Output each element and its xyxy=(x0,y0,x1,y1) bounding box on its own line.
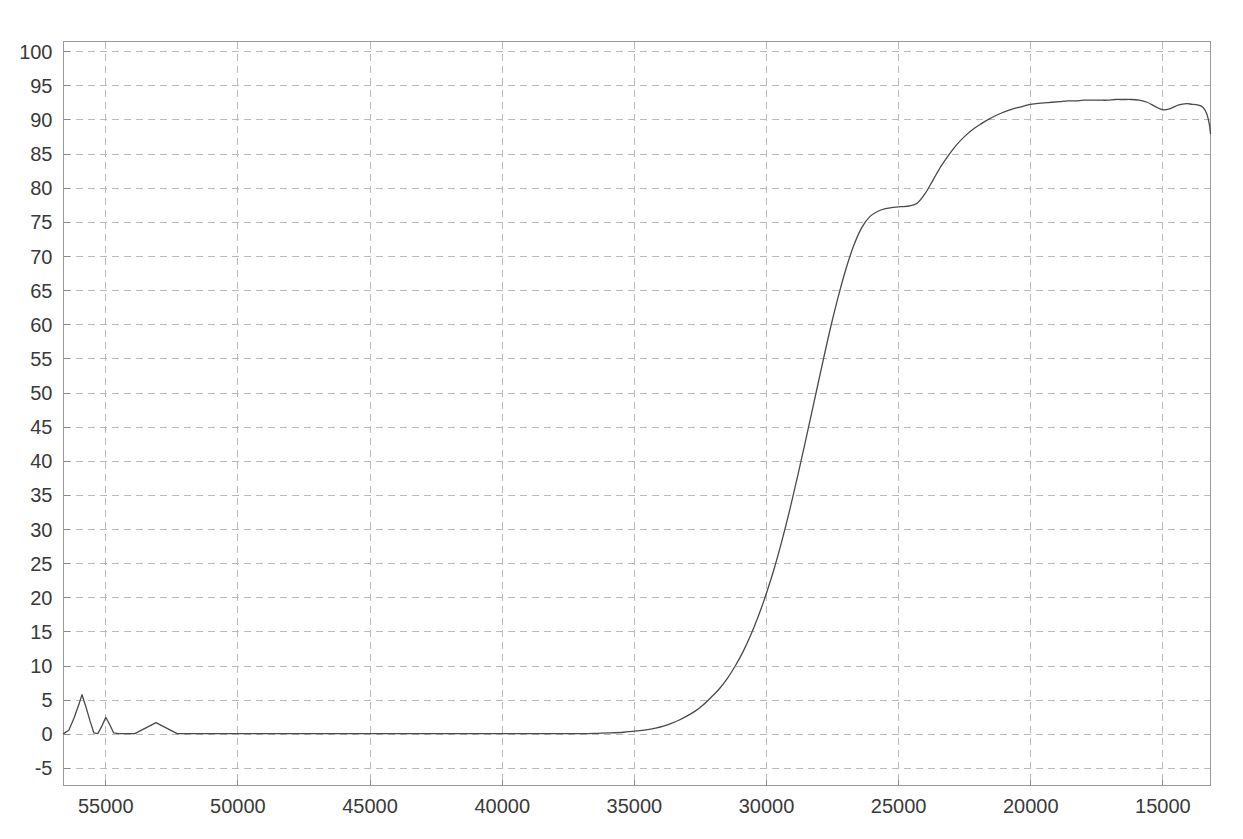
x-axis-tick-labels: 5500050000450004000035000300002500020000… xyxy=(78,795,1191,817)
x-axis-tick-label: 50000 xyxy=(210,795,266,817)
x-axis-tick-label: 25000 xyxy=(871,795,927,817)
plot-frame xyxy=(64,42,1211,786)
y-axis-tick-label: 35 xyxy=(30,484,52,506)
y-axis-tick-label: 50 xyxy=(30,382,52,404)
y-axis-tick-label: 60 xyxy=(30,314,52,336)
y-axis-tick-label: 15 xyxy=(30,621,52,643)
y-axis-tick-label: 80 xyxy=(30,177,52,199)
grid-lines-horizontal xyxy=(64,52,1211,769)
x-axis-tick-label: 55000 xyxy=(78,795,134,817)
data-curve-transmittance xyxy=(64,99,1211,733)
plot-border xyxy=(64,42,1211,786)
y-axis-tick-label: 0 xyxy=(41,723,52,745)
spectrum-chart: -505101520253035404550556065707580859095… xyxy=(0,0,1243,839)
x-axis-tick-label: 15000 xyxy=(1135,795,1191,817)
x-axis-tick-label: 20000 xyxy=(1003,795,1059,817)
y-axis-tick-label: 45 xyxy=(30,416,52,438)
y-axis-tick-label: 30 xyxy=(30,519,52,541)
y-axis-tick-label: 5 xyxy=(41,689,52,711)
axis-tick-marks xyxy=(64,52,1163,786)
y-axis-tick-label: 100 xyxy=(19,41,52,63)
y-axis-tick-label: 95 xyxy=(30,75,52,97)
y-axis-tick-label: 20 xyxy=(30,587,52,609)
y-axis-tick-label: 90 xyxy=(30,109,52,131)
x-axis-tick-label: 45000 xyxy=(342,795,398,817)
y-axis-tick-label: 70 xyxy=(30,246,52,268)
y-axis-tick-label: 65 xyxy=(30,280,52,302)
y-axis-tick-label: 40 xyxy=(30,450,52,472)
y-axis-tick-labels: -505101520253035404550556065707580859095… xyxy=(19,41,52,780)
y-axis-tick-label: 10 xyxy=(30,655,52,677)
x-axis-tick-label: 35000 xyxy=(607,795,663,817)
data-series-group xyxy=(64,99,1211,733)
grid-lines-vertical xyxy=(106,42,1163,786)
y-axis-tick-label: 85 xyxy=(30,143,52,165)
chart-container: -505101520253035404550556065707580859095… xyxy=(0,0,1243,839)
y-axis-tick-label: 25 xyxy=(30,553,52,575)
x-axis-tick-label: 30000 xyxy=(739,795,795,817)
y-axis-tick-label: 55 xyxy=(30,348,52,370)
x-axis-tick-label: 40000 xyxy=(474,795,530,817)
y-axis-tick-label: -5 xyxy=(35,757,53,779)
y-axis-tick-label: 75 xyxy=(30,211,52,233)
